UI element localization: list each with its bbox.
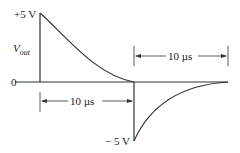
vout-label: Vout xyxy=(13,42,31,57)
duration-label-1: 10 µs xyxy=(70,95,94,107)
duration-label-2: 10 µs xyxy=(168,50,192,62)
pulse-waveform-diagram: 10 µs 10 µs +5 V Vout 0 − 5 V xyxy=(0,0,240,153)
neg-5v-label: − 5 V xyxy=(105,135,130,147)
negative-decay-curve xyxy=(134,82,228,141)
pos-5v-label: +5 V xyxy=(14,8,36,20)
positive-decay-curve xyxy=(40,13,134,82)
zero-label: 0 xyxy=(11,76,17,88)
